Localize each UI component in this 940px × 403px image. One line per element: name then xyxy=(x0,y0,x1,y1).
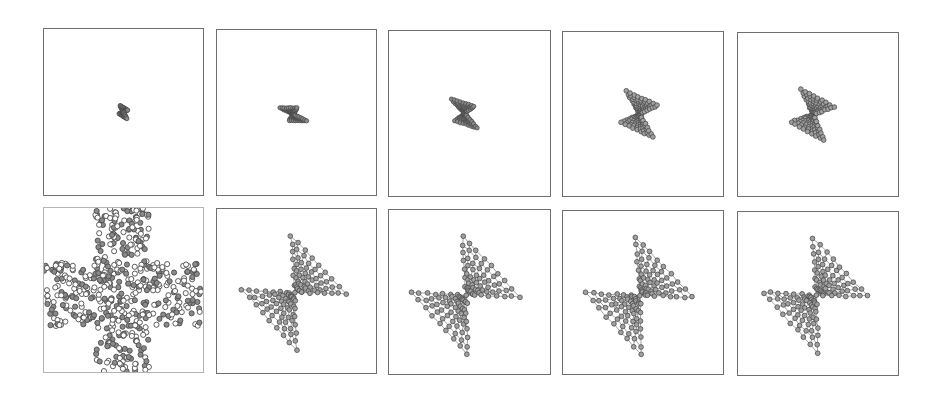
nodes xyxy=(762,236,870,356)
graph-drawing xyxy=(563,211,723,374)
graph-layout-panel-p3 xyxy=(388,30,551,197)
graph-drawing xyxy=(44,208,203,372)
nodes xyxy=(239,234,349,353)
graph-layout-panel-p10 xyxy=(737,211,899,376)
nodes xyxy=(117,103,130,120)
graph-drawing xyxy=(389,210,550,374)
graph-drawing xyxy=(738,212,898,375)
graph-layout-panel-p7 xyxy=(216,208,377,374)
graph-layout-panel-p1 xyxy=(43,28,204,196)
graph-layout-panel-p8 xyxy=(388,209,551,375)
nodes xyxy=(449,97,479,130)
graph-drawing xyxy=(563,32,723,196)
graph-drawing xyxy=(217,209,376,373)
graph-drawing xyxy=(738,33,898,196)
nodes xyxy=(583,235,694,357)
graph-layout-panel-p4 xyxy=(562,31,724,197)
nodes xyxy=(409,234,522,357)
graph-drawing xyxy=(44,29,203,195)
graph-layout-panel-p9 xyxy=(562,210,724,375)
nodes xyxy=(789,87,836,143)
graph-drawing xyxy=(389,31,550,196)
nodes xyxy=(278,106,309,123)
node-cloud xyxy=(44,208,203,372)
graph-drawing xyxy=(217,30,376,195)
graph-layout-panel-p5 xyxy=(737,32,899,197)
random-initial-layout-panel-p6 xyxy=(43,207,204,373)
nodes xyxy=(619,88,660,139)
graph-layout-panel-p2 xyxy=(216,29,377,196)
